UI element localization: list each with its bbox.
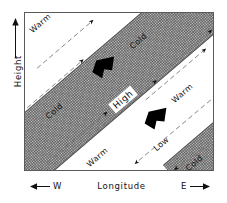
cross-band-arrow [92,56,114,78]
x-axis-label: Longitude [97,181,146,191]
x-axis-west: W [30,181,62,191]
flow-line [169,31,210,67]
x-axis-label-wrap: Longitude [97,181,146,191]
height-axis-arrow-icon [10,18,21,58]
cross-band-arrow [145,108,167,130]
x-axis-west-label: W [53,181,62,191]
left-arrow-icon [30,182,50,191]
flow-line [37,21,92,68]
flow-line [27,60,82,107]
x-axis: W Longitude E [24,178,214,194]
plot-frame: Warm Cold Cold High Warm Warm Low Cold [24,12,214,171]
y-axis-label: Height [13,55,23,87]
right-arrow-icon [190,182,210,191]
x-axis-east-label: E [181,181,187,191]
x-axis-east: E [181,181,210,191]
jet-stream-diagram: Height [0,0,227,203]
